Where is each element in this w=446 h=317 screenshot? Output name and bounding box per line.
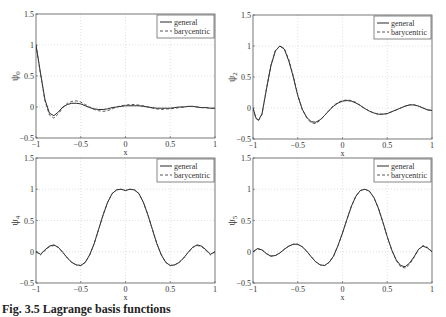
chart-psi0: −1−0.500.51−0.500.511.5xψ0generalbarycen… [9,10,217,157]
x-axis-label: x [124,148,128,157]
y-tick-label: 1 [30,185,34,194]
y-tick-label: 0.5 [241,73,251,82]
x-axis-label: x [124,293,128,302]
y-axis-label: ψ0 [9,71,22,81]
x-tick-label: 1 [430,141,434,150]
figure-caption: Fig. 3.5 Lagrange basis functions [2,302,171,317]
legend: generalbarycentric [374,159,431,182]
y-tick-label: 1.5 [24,10,34,19]
y-tick-label: −0.5 [19,279,34,288]
x-tick-label: 1 [213,285,217,294]
legend-label-barycentric: barycentric [391,28,427,37]
legend-label-barycentric: barycentric [174,171,210,180]
x-tick-label: 0.5 [382,141,392,150]
x-tick-label: 1 [430,285,434,294]
x-tick-label: 0.5 [165,285,175,294]
legend-label-general: general [391,162,415,171]
y-tick-label: 0.5 [24,72,34,81]
y-tick-label: 1.5 [24,154,34,163]
legend-label-general: general [391,19,415,28]
y-tick-label: 0.5 [241,217,251,226]
y-tick-label: 0 [247,104,251,113]
chart-psi5: −1−0.500.51−0.500.511.5xψ5generalbarycen… [226,154,434,302]
x-tick-label: −0.5 [73,285,88,294]
y-tick-label: −0.5 [236,279,251,288]
y-tick-label: 0 [30,103,34,112]
legend-label-general: general [174,18,198,27]
x-tick-label: −0.5 [290,141,305,150]
legend-label-barycentric: barycentric [391,171,427,180]
y-axis-label: ψ2 [226,72,239,82]
y-tick-label: 1 [30,41,34,50]
y-tick-label: 0 [30,248,34,257]
y-tick-label: 0.5 [24,217,34,226]
legend: generalbarycentric [374,16,431,39]
y-tick-label: 0 [247,248,251,257]
x-axis-label: x [341,149,345,158]
legend-label-barycentric: barycentric [174,27,210,36]
chart-psi2: −1−0.500.51−0.500.511.5xψ2generalbarycen… [226,11,434,158]
legend: generalbarycentric [157,15,214,38]
x-tick-label: −0.5 [290,285,305,294]
x-tick-label: −0.5 [73,140,88,149]
y-tick-label: 1 [247,185,251,194]
series-barycentric [253,189,432,268]
y-tick-label: 1.5 [241,154,251,163]
x-tick-label: 0.5 [382,285,392,294]
chart-psi4: −1−0.500.51−0.500.511.5xψ4generalbarycen… [9,154,217,302]
x-tick-label: 0.5 [165,140,175,149]
y-tick-label: 1 [247,42,251,51]
y-tick-label: −0.5 [236,135,251,144]
x-axis-label: x [341,293,345,302]
y-axis-label: ψ5 [226,215,239,225]
legend-label-general: general [174,162,198,171]
y-tick-label: 1.5 [241,11,251,20]
y-axis-label: ψ4 [9,215,22,225]
legend: generalbarycentric [157,159,214,182]
x-tick-label: 1 [213,140,217,149]
y-tick-label: −0.5 [19,134,34,143]
